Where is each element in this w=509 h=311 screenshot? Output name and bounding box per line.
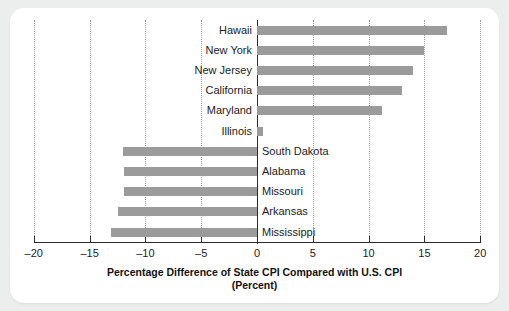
x-tick-label-neg15: –15 [70, 247, 110, 259]
x-tick-label-10: 10 [349, 247, 389, 259]
x-tick-label-20: 20 [460, 247, 499, 259]
bar-south-dakota [123, 147, 257, 156]
x-tick-label-15: 15 [404, 247, 444, 259]
gridline-20 [480, 20, 481, 242]
chart-title: Percentage Difference of State CPI Compa… [107, 266, 402, 278]
bar-label-new-york: New York [206, 45, 252, 56]
bar-label-missouri: Missouri [262, 186, 303, 197]
x-tick-label-neg20: –20 [14, 247, 54, 259]
bar-california [257, 86, 402, 95]
chart-plot-area: –20–15–10–505101520 HawaiiNew YorkNew Je… [10, 8, 499, 303]
x-tick-20 [480, 236, 481, 243]
bar-alabama [124, 167, 257, 176]
bar-arkansas [118, 207, 258, 216]
bar-missouri [124, 187, 257, 196]
bar-label-illinois: Illinois [221, 126, 252, 137]
bar-label-alabama: Alabama [262, 166, 305, 177]
gridline-neg20 [34, 20, 35, 242]
chart-subtitle: (Percent) [10, 279, 499, 292]
bar-maryland [257, 106, 382, 115]
x-tick-label-neg10: –10 [125, 247, 165, 259]
bar-hawaii [257, 26, 447, 35]
bar-label-hawaii: Hawaii [219, 25, 252, 36]
chart-title-block: Percentage Difference of State CPI Compa… [10, 266, 499, 292]
bar-label-maryland: Maryland [207, 105, 252, 116]
gridline-15 [424, 20, 425, 242]
bar-label-south-dakota: South Dakota [262, 146, 329, 157]
bar-label-mississippi: Mississippi [262, 227, 315, 238]
bar-mississippi [111, 228, 257, 237]
x-tick-label-0: 0 [237, 247, 277, 259]
x-tick-label-5: 5 [293, 247, 333, 259]
bar-label-new-jersey: New Jersey [195, 65, 252, 76]
chart-card: –20–15–10–505101520 HawaiiNew YorkNew Je… [10, 8, 499, 303]
bar-new-jersey [257, 66, 413, 75]
x-tick-label-neg5: –5 [181, 247, 221, 259]
bar-label-california: California [206, 85, 252, 96]
bar-new-york [257, 46, 424, 55]
gridline-neg15 [90, 20, 91, 242]
bar-illinois [257, 127, 263, 136]
bar-label-arkansas: Arkansas [262, 206, 308, 217]
